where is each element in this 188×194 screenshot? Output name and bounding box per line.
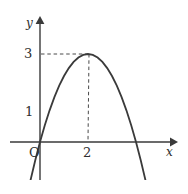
parabola-path-helper: [21, 54, 40, 194]
origin-label: O: [29, 146, 40, 159]
vertex-vertical-dashed-line: [88, 54, 89, 141]
y-tick-label-1: 1: [25, 105, 33, 118]
y-tick-label-3: 3: [24, 47, 32, 60]
y-axis-label: y: [26, 17, 33, 29]
x-axis-label: x: [166, 146, 173, 158]
bottom-mask: [0, 180, 188, 193]
x-tick-label-2: 2: [83, 146, 91, 159]
parabola-figure: y x 3 1 2 O: [0, 0, 188, 193]
y-axis-arrowhead-icon: [36, 16, 45, 24]
